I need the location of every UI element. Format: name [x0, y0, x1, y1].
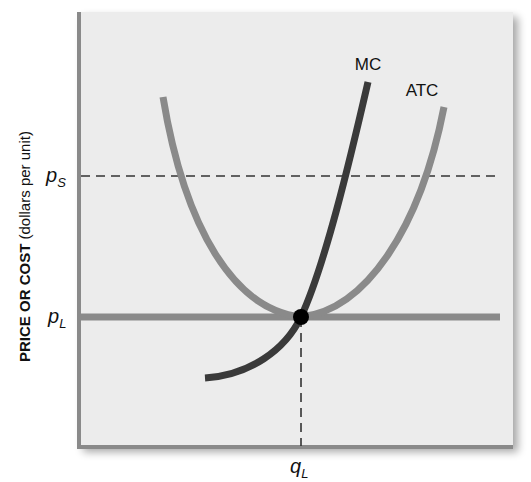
y-axis-title: PRICE OR COST (dollars per unit) [16, 131, 33, 362]
ps-label: pS [45, 164, 66, 190]
pl-label: pL [47, 305, 66, 331]
plot-area [78, 12, 513, 447]
atc-label: ATC [406, 81, 439, 100]
y-axis-title-bold: PRICE OR COST [16, 244, 33, 362]
y-axis-title-normal: (dollars per unit) [16, 131, 33, 244]
ql-label: qL [290, 455, 308, 481]
ps-label-sub: S [57, 175, 66, 190]
pl-label-main: p [47, 305, 59, 327]
ql-label-main: q [290, 455, 301, 477]
mc-label: MC [355, 55, 381, 74]
ql-label-sub: L [301, 466, 308, 481]
chart: MC ATC pS pL qL PRICE OR COST (dollars p… [0, 0, 531, 482]
ps-label-main: p [45, 164, 57, 186]
equilibrium-point [293, 309, 309, 325]
pl-label-sub: L [59, 316, 66, 331]
